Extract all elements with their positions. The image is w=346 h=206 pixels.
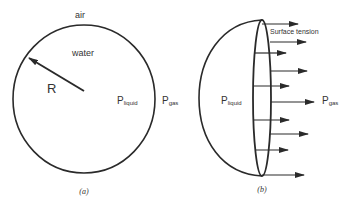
radius-arrow — [29, 58, 84, 91]
radius-label: R — [47, 81, 56, 96]
p-liquid-label-b: Pliquid — [221, 95, 242, 106]
air-label: air — [75, 10, 85, 20]
p-gas-label-a: Pgas — [162, 95, 178, 106]
water-label: water — [71, 48, 94, 58]
surface-tension-arrows — [253, 24, 314, 175]
panel-a: air water R Pliquid Pgas (a) — [13, 10, 178, 196]
surface-tension-label: Surface tension — [270, 28, 319, 35]
p-liquid-label-a: Pliquid — [117, 95, 138, 106]
bubble-pressure-diagram: air water R Pliquid Pgas (a) Surface ten… — [0, 0, 346, 206]
caption-b: (b) — [257, 185, 267, 194]
p-gas-label-b: Pgas — [322, 95, 338, 106]
caption-a: (a) — [79, 187, 89, 196]
panel-b: Surface tension Pliquid Pgas (b) — [199, 20, 338, 194]
cut-plane-ellipse — [253, 20, 271, 176]
